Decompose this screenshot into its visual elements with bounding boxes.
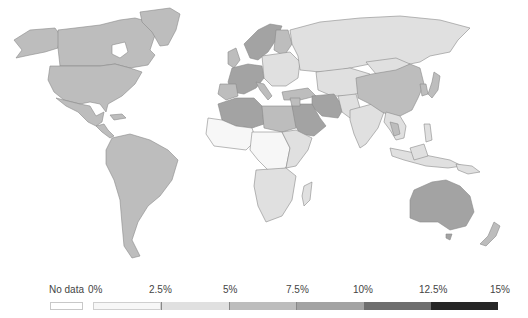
region-madagascar[interactable]: [302, 182, 312, 206]
legend-bin-10-12-5: [364, 302, 431, 310]
region-italy[interactable]: [256, 82, 272, 100]
world-map: [0, 0, 528, 270]
region-japan[interactable]: [428, 72, 440, 98]
region-central-africa[interactable]: [250, 132, 290, 172]
region-uk[interactable]: [228, 48, 240, 68]
region-libya-egypt[interactable]: [262, 106, 296, 132]
legend-bin-5-7-5: [229, 302, 296, 310]
legend-no-data-swatch: [50, 302, 83, 310]
region-papua[interactable]: [456, 164, 480, 174]
legend-tick-10: 10%: [353, 284, 373, 295]
legend-tick-0: 0%: [88, 284, 102, 295]
legend-no-data-label: No data: [49, 284, 84, 295]
legend-tick-2-5: 2.5%: [149, 284, 172, 295]
legend-tick-5: 5%: [223, 284, 237, 295]
region-south-america[interactable]: [106, 134, 178, 258]
region-usa[interactable]: [48, 64, 142, 112]
legend-bin-7-5-10: [296, 302, 364, 310]
region-australia[interactable]: [410, 180, 474, 230]
legend-bin-12-5-15: [431, 302, 498, 310]
region-alaska[interactable]: [14, 28, 60, 58]
region-eastern-europe[interactable]: [262, 52, 300, 86]
legend-tick-12-5: 12.5%: [419, 284, 447, 295]
legend-tick-7-5: 7.5%: [286, 284, 309, 295]
legend-divider: [296, 302, 297, 310]
region-philippines[interactable]: [424, 124, 432, 142]
region-canada[interactable]: [58, 18, 155, 68]
legend-bin-2-5-5: [161, 302, 229, 310]
region-southern-africa[interactable]: [254, 168, 296, 222]
region-tasmania[interactable]: [446, 234, 452, 240]
region-korea[interactable]: [420, 84, 428, 96]
region-iberia[interactable]: [218, 84, 238, 100]
legend-divider: [229, 302, 230, 310]
map-legend: No data 0% 2.5% 5% 7.5% 10% 12.5% 15%: [0, 284, 528, 318]
region-new-zealand[interactable]: [480, 222, 500, 246]
legend-tick-15: 15%: [490, 284, 510, 295]
region-levant[interactable]: [290, 98, 300, 106]
region-central-america[interactable]: [96, 124, 114, 138]
legend-bin-0-2-5: [93, 302, 161, 310]
region-india[interactable]: [350, 104, 384, 148]
legend-divider: [161, 302, 162, 310]
region-caribbean[interactable]: [110, 114, 126, 120]
